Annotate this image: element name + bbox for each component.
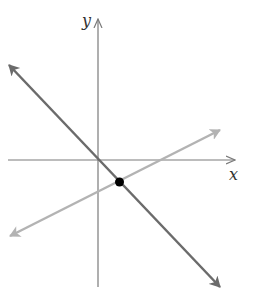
increasing-line [10, 130, 220, 236]
coordinate-diagram: y x [0, 0, 254, 297]
y-axis-label: y [81, 11, 92, 30]
decreasing-line [9, 65, 220, 287]
intersection-point [115, 178, 124, 187]
x-axis-label: x [229, 165, 238, 184]
